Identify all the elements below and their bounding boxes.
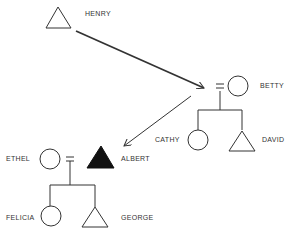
david-male-triangle-icon — [229, 131, 255, 151]
label-cathy: CATHY — [155, 136, 180, 143]
felicia-female-circle-icon — [41, 206, 61, 226]
label-ethel: ETHEL — [6, 155, 30, 162]
label-henry: HENRY — [85, 10, 111, 17]
label-david: DAVID — [262, 136, 284, 143]
label-felicia: FELICIA — [6, 214, 35, 221]
label-george: GEORGE — [121, 214, 154, 221]
label-betty: BETTY — [260, 82, 284, 89]
pedigree-diagram — [0, 0, 289, 234]
arrow-henry-to-betty — [76, 31, 204, 88]
henry-male-triangle-icon — [46, 7, 71, 28]
label-albert: ALBERT — [121, 155, 150, 162]
george-male-triangle-icon — [82, 207, 108, 227]
betty-female-circle-icon — [228, 76, 248, 96]
albert-affected-male-triangle-icon — [87, 146, 114, 168]
ethel-female-circle-icon — [40, 149, 60, 169]
cathy-female-circle-icon — [188, 130, 208, 150]
